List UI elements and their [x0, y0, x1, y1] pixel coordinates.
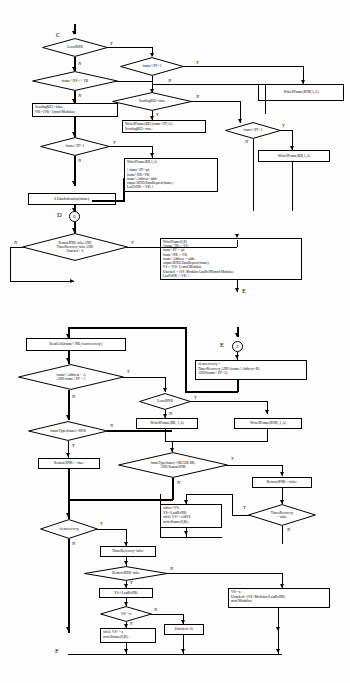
decision-localrnr-text: LocalRNR	[42, 38, 108, 57]
arrowhead-remoternr-n	[280, 584, 284, 588]
decision-pf1-top: frame^.PF=1	[120, 57, 184, 76]
arrowhead-entry-c	[72, 31, 76, 35]
arrowhead-after-readack	[66, 358, 70, 362]
edge-label-pf1mid-n: N	[245, 140, 248, 145]
arrowhead-localrnr2-n	[163, 414, 167, 418]
decision-pf1-top-text: frame^.PF=1	[120, 57, 184, 76]
edge-clearrec-y	[97, 529, 126, 530]
edge-pf1left-y	[109, 146, 152, 147]
connector-label-f: F	[55, 648, 59, 655]
edge-label-pf1top-n: N	[168, 79, 171, 84]
arrowhead-unacked-rail	[181, 649, 185, 653]
connector-circle-d: D	[69, 211, 80, 222]
process-data-indication: S.DataIndication(frame);	[28, 193, 116, 205]
edge-label-addr-n: N	[72, 395, 75, 400]
edge-pf1mid-y	[280, 130, 292, 131]
edge-vsx-n	[151, 614, 183, 615]
decision-localrnr: LocalRNR	[42, 38, 108, 57]
edge-after-remoternr-true	[68, 469, 70, 499]
edge-label-pf1left-n: N	[78, 159, 81, 164]
arrowhead-vsx-y	[124, 624, 128, 628]
arrowhead-clearrec-n	[66, 627, 70, 631]
edge-ftyperej-y	[227, 465, 282, 466]
edge-label-remoternr-n: N	[170, 567, 173, 572]
process-clearrecovery-assign: clearrecovery:= TimerRecovery AND (frame…	[195, 360, 307, 380]
decision-localrnr-bottom: LocalRNR	[139, 393, 191, 410]
edge-label-localrnr-y: Y	[110, 42, 113, 47]
process-write-rnr-bottom: WriteSFrame(RNR, 1,A)	[234, 418, 302, 429]
process-write-rr-big: WriteSFrame(RR,1,A) { frame^.PF:=pf; fra…	[124, 158, 218, 192]
process-write-rr-bottom: WriteSFrame(RR, 1,A)	[136, 418, 198, 429]
edge-clearrec-left-up	[185, 327, 187, 392]
edge-addr-y	[123, 377, 165, 378]
arrowhead-localrnr2-y	[265, 410, 269, 414]
decision-ns-vr: frame^.NS <> VR	[32, 71, 118, 91]
connector-label-c: C	[56, 32, 60, 39]
decision-pf1-mid-text: frame^.PF=1	[225, 122, 281, 139]
edge-timerrec-y-left	[186, 494, 233, 495]
edge-remote-n-right	[10, 281, 74, 282]
edge-label-nsvr-n: N	[78, 94, 81, 99]
decision-timerrecovery: TimerRecovery = false	[248, 504, 316, 526]
decision-ns-vr-text: frame^.NS <> VR	[32, 71, 118, 91]
decision-ftype-rej-text: frameType(frame)=(REJ OR RR) AND RemoteR…	[118, 452, 228, 478]
process-remoternr-false: RemoteRNR :=false;	[252, 477, 312, 488]
edge-label-ftypernr-y: Y	[72, 444, 75, 449]
arrowhead-while-rail	[124, 649, 128, 653]
edge-oldvs-bottom	[160, 537, 222, 538]
edge-after-rr-small	[292, 162, 293, 211]
process-write-rr-small: WriteSFrame(RR,1,A)	[258, 150, 330, 162]
edge-ftypernr-n	[107, 430, 172, 432]
edge-nsvr-y	[117, 81, 152, 82]
connector-label-e-top: E	[242, 288, 246, 295]
decision-sendingrej-text: SendingREJ=false	[112, 92, 192, 111]
edge-label-localrnr-n: N	[78, 62, 81, 67]
arrowhead-pf1left-y	[150, 153, 154, 157]
arrowhead-pf1mid-y	[290, 146, 294, 150]
edge-pf1top-n-down2	[265, 84, 266, 114]
edge-label-vsx-y: Y	[130, 622, 133, 627]
decision-timerrecovery-text: TimerRecovery = false	[248, 504, 316, 526]
edge-label-clearrec-n: N	[72, 542, 75, 547]
edge-clearrec-top	[68, 327, 186, 329]
edge-label-remote-y: Y	[131, 241, 134, 246]
edge-label-remote-n: N	[14, 241, 17, 246]
process-sendingrej-false: SendingREJ:=false; VR:=(VR+1)mod Modulus…	[32, 103, 118, 117]
edge-rnr-bottom-down	[267, 429, 268, 441]
edge-merge-rr-rnr	[165, 441, 268, 442]
edge-timerrec-n	[282, 526, 283, 544]
edge-label-localrnr2-y: Y	[194, 396, 197, 401]
arrowhead-entry-e2	[235, 333, 239, 337]
arrowhead-pf1left-n	[72, 181, 76, 185]
decision-remoternr-false-text: RemoteRNR=false	[84, 566, 168, 581]
process-oldvs-loop: oldvs:=VS; VS:=LastRxNR; while VS<> oldV…	[160, 504, 222, 528]
arrowhead-to-e	[235, 288, 239, 292]
arrowhead-entry-bottom-left	[66, 334, 70, 338]
decision-clearrecovery: clearrecovery	[40, 519, 98, 539]
edge-label-localrnr2-n: N	[169, 412, 172, 417]
decision-ftype-rnr: frameType(frame)=RNR	[28, 421, 108, 441]
edge-clearrec-left	[185, 391, 238, 393]
edge-localrnr2-y	[190, 401, 267, 402]
edge-localrnr-y	[107, 47, 152, 48]
arrowhead-vsx-rail	[276, 649, 280, 653]
edge-label-pf1top-y: Y	[196, 61, 199, 66]
arrowhead-vsx-n	[181, 620, 185, 624]
decision-ftype-rej: frameType(frame)=(REJ OR RR) AND RemoteR…	[118, 452, 228, 478]
decision-pf1-left: frame^.PF=1	[40, 137, 110, 156]
arrowhead-vsx-unacked	[276, 627, 280, 631]
edge-remoternr-n	[167, 573, 282, 574]
decision-address-pf: frame^.Address = A AND frame^.PF = 1	[18, 364, 124, 390]
arrowhead-pf1top-y	[301, 80, 305, 84]
edge-label-timerrec-y: Y	[243, 506, 246, 511]
decision-sendingrej: SendingREJ=false	[112, 92, 192, 111]
process-remoternr-true: RemoteRNR := true;	[38, 458, 100, 469]
edge-label-vsx-n: N	[154, 608, 157, 613]
arrowhead-trunk-clearrec	[66, 513, 70, 517]
edge-pf1mid-n	[253, 139, 254, 211]
edge-ftyperej-n-left	[68, 499, 173, 501]
arrowhead-after-e2	[235, 355, 239, 359]
decision-localrnr-bottom-text: LocalRNR	[139, 393, 191, 410]
process-write-rnr: WriteSFrame(RNR,1,A)	[258, 84, 344, 101]
decision-pf1-mid: frame^.PF=1	[225, 122, 281, 139]
